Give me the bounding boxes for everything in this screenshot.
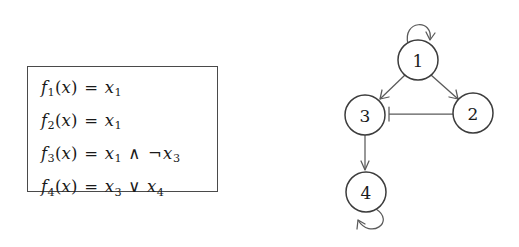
node-3[interactable]: 3: [345, 95, 385, 135]
function-index-f4: 4: [47, 186, 55, 199]
paren-close-f3: ): [71, 144, 78, 163]
rhs-var-f4-0: x: [105, 177, 115, 196]
edge-1-to-2: [431, 75, 458, 99]
edge-2-to-3: [389, 107, 453, 121]
negation-operator-f3: ¬: [147, 144, 163, 163]
rhs-var-index-f1-0: 1: [114, 86, 122, 99]
rhs-var-f2-0: x: [105, 111, 115, 130]
equation-box: f1(x) = x1 f2(x) = x1 f3(x) = x1 ∧ ¬x3 f…: [27, 66, 218, 192]
argument-f4: x: [62, 177, 72, 196]
equation-line-f2: f2(x) = x1: [41, 107, 217, 140]
node-4-label: 4: [361, 183, 372, 203]
rhs-var-index-f3-1: 3: [173, 152, 181, 165]
equation-line-f3: f3(x) = x1 ∧ ¬x3: [41, 140, 217, 173]
node-2-label: 2: [468, 104, 479, 124]
paren-open-f4: (: [55, 177, 62, 196]
equals-sign-f4: =: [83, 177, 99, 196]
conjunction-operator-f3: ∧: [127, 144, 141, 163]
disjunction-operator-f4: ∨: [127, 177, 141, 196]
equals-sign-f1: =: [83, 78, 99, 97]
graph-svg: 1 2 3 4: [300, 0, 519, 247]
equation-line-f1: f1(x) = x1: [41, 74, 217, 107]
equals-sign-f2: =: [83, 111, 99, 130]
paren-close-f4: ): [71, 177, 78, 196]
node-1[interactable]: 1: [398, 40, 438, 80]
equals-sign-f3: =: [83, 144, 99, 163]
rhs-var-index-f4-0: 3: [114, 186, 122, 199]
rhs-var-f3-1: x: [163, 144, 173, 163]
rhs-var-f4-1: x: [147, 177, 157, 196]
node-2[interactable]: 2: [453, 93, 493, 133]
edge-3-to-4: [361, 135, 369, 170]
function-index-f2: 2: [47, 119, 55, 132]
edge-1-to-3: [380, 75, 405, 99]
paren-open-f2: (: [55, 111, 62, 130]
rhs-var-f1-0: x: [105, 78, 115, 97]
rhs-var-index-f4-1: 4: [157, 186, 165, 199]
figure-root: f1(x) = x1 f2(x) = x1 f3(x) = x1 ∧ ¬x3 f…: [0, 0, 519, 247]
argument-f2: x: [62, 111, 72, 130]
rhs-var-f3-0: x: [105, 144, 115, 163]
paren-open-f1: (: [55, 78, 62, 97]
node-4[interactable]: 4: [346, 172, 386, 212]
node-3-label: 3: [360, 106, 371, 126]
equation-line-f4: f4(x) = x3 ∨ x4: [41, 173, 217, 206]
argument-f1: x: [62, 78, 72, 97]
function-index-f3: 3: [47, 152, 55, 165]
rhs-var-index-f3-0: 1: [114, 152, 122, 165]
function-index-f1: 1: [47, 86, 55, 99]
argument-f3: x: [62, 144, 72, 163]
paren-close-f2: ): [71, 111, 78, 130]
paren-open-f3: (: [55, 144, 62, 163]
node-1-label: 1: [413, 51, 424, 71]
paren-close-f1: ): [71, 78, 78, 97]
state-transition-graph: 1 2 3 4: [300, 0, 519, 247]
rhs-var-index-f2-0: 1: [114, 119, 122, 132]
